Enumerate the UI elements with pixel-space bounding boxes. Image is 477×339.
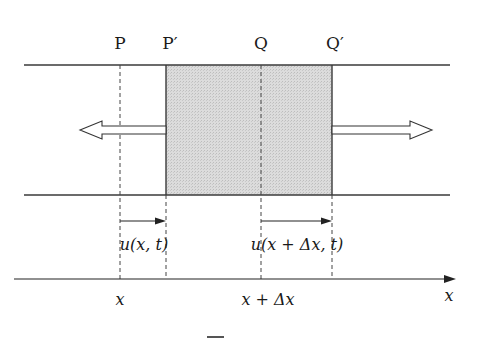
x-axis-arrowhead-icon — [444, 275, 456, 283]
label-P-prime: P′ — [162, 33, 177, 53]
label-Q-prime: Q′ — [326, 33, 344, 53]
axis-name-x: x — [444, 286, 453, 305]
left-force-arrow-icon — [80, 121, 166, 139]
displacement-arrow-right-head-icon — [321, 218, 332, 225]
displacement-arrow-left-head-icon — [155, 218, 166, 225]
label-Q: Q — [254, 33, 268, 53]
label-P: P — [114, 33, 125, 53]
tick-label-x: x — [115, 290, 124, 309]
elastic-bar-diagram: P P′ Q Q′ u(x, t) u(x + Δx, t) x x + Δx … — [0, 0, 477, 339]
right-force-arrow-icon — [332, 121, 432, 139]
label-u-x-dx-t: u(x + Δx, t) — [251, 235, 344, 254]
label-u-x-t: u(x, t) — [120, 235, 168, 254]
shaded-element — [166, 65, 332, 195]
tick-label-x-plus-dx: x + Δx — [241, 290, 294, 309]
